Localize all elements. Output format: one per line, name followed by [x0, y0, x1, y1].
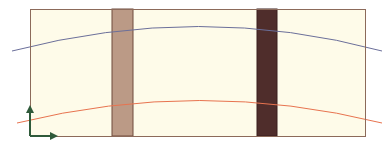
diagram-canvas [0, 0, 392, 146]
panel [30, 9, 365, 136]
light-bar [112, 9, 133, 136]
dark-bar [257, 9, 277, 136]
